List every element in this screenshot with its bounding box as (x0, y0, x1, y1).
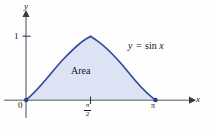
function-label-y: y (128, 40, 132, 51)
pi-half-numerator: π (85, 102, 91, 109)
x-tick-label-pi-half: π 2 (84, 102, 91, 119)
x-axis-label: x (196, 95, 200, 104)
pi-half-denominator: 2 (85, 111, 91, 118)
x-axis-arrowhead (189, 97, 196, 104)
y-axis-arrowhead (22, 10, 29, 17)
origin-point (24, 98, 28, 102)
function-label-sin: sin (145, 40, 157, 51)
sine-area-figure: y x 1 0 π π 2 Area y = sin x (0, 0, 210, 131)
plot-canvas (0, 0, 210, 131)
y-axis-label: y (24, 2, 28, 11)
x-tick-label-zero: 0 (18, 101, 23, 110)
function-label-equals: = (135, 40, 143, 51)
area-annotation: Area (71, 66, 90, 76)
y-tick-label-one: 1 (14, 32, 19, 41)
function-label: y = sin x (128, 41, 164, 51)
function-label-variable: x (159, 40, 163, 51)
x-tick-label-pi: π (151, 102, 155, 110)
